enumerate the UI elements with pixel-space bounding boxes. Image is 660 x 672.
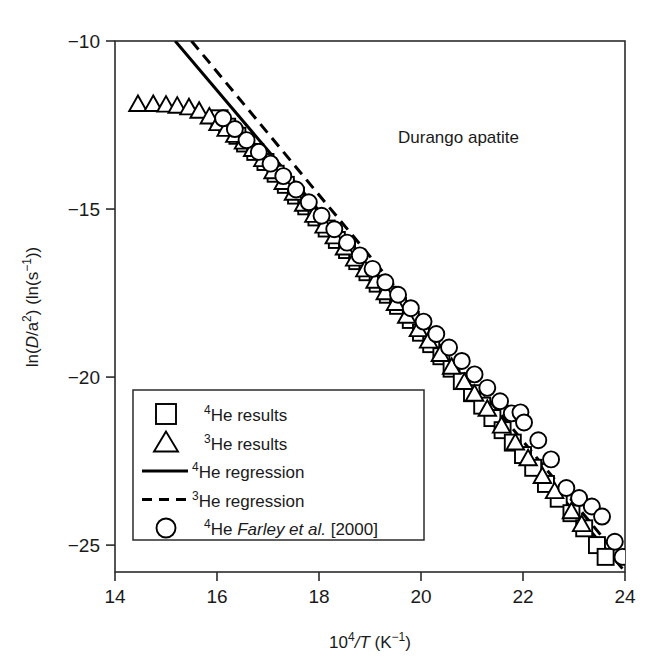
y-axis-title-open: ln( <box>23 348 42 367</box>
marker-circle <box>239 132 255 148</box>
arrhenius-chart-figure: 141618202224 −10−15−20−25 Durango apatit… <box>0 0 660 672</box>
y-axis-title-unit-exponent: −1 <box>20 258 34 272</box>
legend-label-line: 4He regression <box>192 460 305 482</box>
legend-text: He results <box>211 435 288 454</box>
marker-circle <box>530 432 546 448</box>
chart-legend: 4He results3He results4He regression3He … <box>133 390 424 540</box>
marker-circle <box>339 235 355 251</box>
marker-circle <box>416 314 432 330</box>
y-tick-label-−25: −25 <box>68 535 100 556</box>
marker-circle <box>607 534 623 550</box>
marker-circle <box>390 287 406 303</box>
y-axis-title-close: )) <box>23 247 42 258</box>
y-axis-title-slash: /a <box>23 321 42 336</box>
legend-text-citation: Farley et al. <box>237 520 326 539</box>
legend-label-triangle: 3He results <box>204 432 287 454</box>
svg-text:104/T (K−1): 104/T (K−1) <box>329 630 411 652</box>
legend-label-circle: 4He Farley et al. [2000] <box>204 517 378 539</box>
x-axis-title-unit-close: ) <box>405 633 411 652</box>
x-axis-title-unit-exponent: −1 <box>392 630 406 644</box>
marker-circle <box>301 194 317 210</box>
legend-symbol-square <box>156 404 176 424</box>
y-tick-label-−10: −10 <box>68 31 100 52</box>
marker-circle <box>377 274 393 290</box>
marker-circle <box>543 451 559 467</box>
y-axis-title-mid: ) (ln(s <box>23 272 42 315</box>
legend-text: He regression <box>199 492 305 511</box>
x-axis-title-base: 10 <box>329 633 348 652</box>
x-tick-label-16: 16 <box>206 586 227 607</box>
marker-circle <box>314 208 330 224</box>
y-axis-title: ln(D/a2) (ln(s−1)) <box>20 247 42 368</box>
legend-text: He regression <box>199 463 305 482</box>
marker-circle <box>454 353 470 369</box>
y-axis-title-variable: D <box>23 336 42 348</box>
y-axis-tick-labels: −10−15−20−25 <box>68 31 100 556</box>
x-axis-title-variable: /T <box>354 633 372 652</box>
marker-circle <box>594 509 610 525</box>
marker-circle <box>428 326 444 342</box>
marker-circle <box>263 156 279 172</box>
marker-circle <box>288 182 304 198</box>
x-tick-label-20: 20 <box>410 586 431 607</box>
marker-circle <box>275 168 291 184</box>
marker-circle <box>441 340 457 356</box>
legend-label-dashed: 3He regression <box>192 489 305 511</box>
x-axis-title: 104/T (K−1) <box>329 630 411 652</box>
legend-text-post: [2000] <box>326 520 378 539</box>
legend-symbol-circle <box>157 519 176 538</box>
marker-circle <box>403 300 419 316</box>
x-tick-label-24: 24 <box>614 586 636 607</box>
sample-annotation: Durango apatite <box>398 128 519 147</box>
x-tick-label-22: 22 <box>512 586 533 607</box>
marker-circle <box>365 261 381 277</box>
x-tick-label-14: 14 <box>104 586 126 607</box>
marker-circle <box>516 414 532 430</box>
chart-canvas: 141618202224 −10−15−20−25 Durango apatit… <box>0 0 660 672</box>
marker-circle <box>479 380 495 396</box>
marker-square <box>598 549 614 565</box>
x-tick-label-18: 18 <box>308 586 329 607</box>
legend-text-pre: He <box>211 520 237 539</box>
marker-circle <box>467 366 483 382</box>
y-tick-label-−15: −15 <box>68 199 100 220</box>
y-tick-label-−20: −20 <box>68 367 100 388</box>
marker-circle <box>326 221 342 237</box>
legend-label-square: 4He results <box>204 403 287 425</box>
svg-text:ln(D/a2) (ln(s−1)): ln(D/a2) (ln(s−1)) <box>20 247 42 368</box>
x-axis-ticks <box>115 572 625 581</box>
x-axis-title-unit-open: (K <box>370 633 392 652</box>
marker-circle <box>352 247 368 263</box>
marker-circle <box>614 549 630 565</box>
y-axis-ticks <box>106 41 115 545</box>
x-axis-tick-labels: 141618202224 <box>104 586 636 607</box>
legend-text: He results <box>211 406 288 425</box>
